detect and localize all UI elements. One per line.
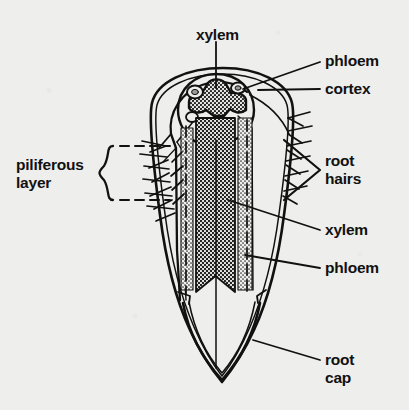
label-xylem-top: xylem <box>196 26 239 43</box>
label-root-cap-line2: cap <box>325 369 351 387</box>
cortex-cut-right <box>250 95 289 134</box>
leader-phloem-mid <box>245 255 320 268</box>
label-piliferous-layer-line1: piliferous <box>16 156 84 174</box>
piliferous-brace <box>100 146 114 200</box>
label-piliferous-layer-line2: layer <box>16 174 51 192</box>
label-cortex: cortex <box>325 80 370 97</box>
phloem-pocket-right-core <box>235 86 241 90</box>
label-root-cap-line1: root <box>325 351 354 369</box>
leader-cortex <box>258 89 320 90</box>
label-root-hairs-line2: hairs <box>325 170 361 188</box>
leader-root-cap <box>253 340 320 360</box>
root-diagram-page: xylem phloem cortex piliferous layer roo… <box>0 0 409 410</box>
label-phloem-mid: phloem <box>325 259 379 276</box>
label-phloem-top: phloem <box>325 52 379 69</box>
phloem-pocket-left-core <box>192 89 199 94</box>
label-xylem-mid: xylem <box>325 221 368 238</box>
root-cap-outer <box>183 303 260 380</box>
label-root-hairs-line1: root <box>325 152 354 170</box>
